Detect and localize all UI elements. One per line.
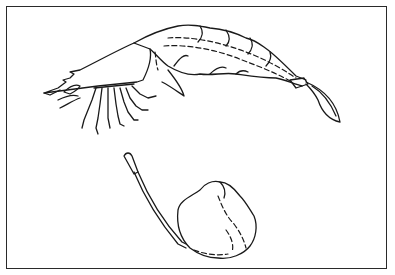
figure-illustration — [0, 0, 395, 275]
material-lump-drawing — [178, 181, 256, 258]
shrimp-drawing — [44, 25, 340, 134]
